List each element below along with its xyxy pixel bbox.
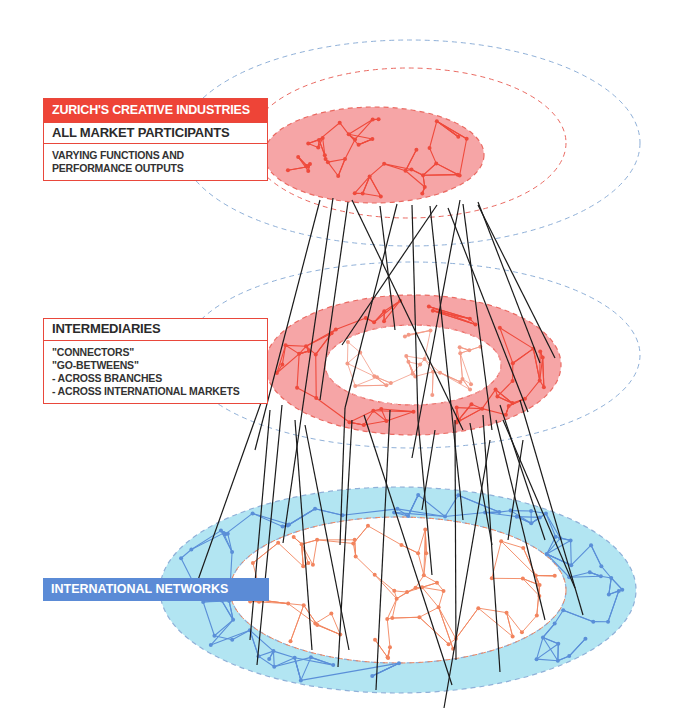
label-description: VARYING FUNCTIONS AND PERFORMANCE OUTPUT… (44, 143, 267, 180)
label-intermediaries: INTERMEDIARIES "CONNECTORS" "GO-BETWEENS… (43, 318, 268, 404)
description-line: PERFORMANCE OUTPUTS (52, 162, 259, 175)
description-line: - ACROSS BRANCHES (52, 372, 259, 385)
label-header: ZURICH'S CREATIVE INDUSTRIES (44, 99, 267, 122)
description-line: "CONNECTORS" (52, 346, 259, 359)
label-title: ALL MARKET PARTICIPANTS (44, 122, 267, 143)
label-description: "CONNECTORS" "GO-BETWEENS" - ACROSS BRAN… (44, 340, 267, 403)
label-zurich-creative-industries: ZURICH'S CREATIVE INDUSTRIES ALL MARKET … (43, 98, 268, 181)
all-market-participants-layer (264, 107, 484, 203)
description-line: VARYING FUNCTIONS AND (52, 149, 259, 162)
description-line: - ACROSS INTERNATIONAL MARKETS (52, 385, 259, 398)
description-line: "GO-BETWEENS" (52, 359, 259, 372)
label-international-networks: INTERNATIONAL NETWORKS (43, 578, 269, 601)
label-title: INTERMEDIARIES (44, 319, 267, 340)
